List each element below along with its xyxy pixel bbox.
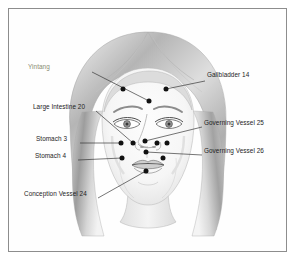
point-stomach-3 — [119, 141, 124, 146]
point-stomach-4-right — [161, 156, 166, 161]
point-nose-right-b — [165, 141, 170, 146]
label-stomach-3: Stomach 3 — [36, 136, 67, 142]
point-stomach-4 — [120, 156, 125, 161]
point-large-intestine-20 — [131, 141, 136, 146]
face-drawing-svg — [8, 8, 289, 254]
label-conception-vessel-24: Conception Vessel 24 — [24, 191, 87, 197]
point-governing-vessel-26 — [144, 150, 149, 155]
label-governing-vessel-26: Governing Vessel 26 — [204, 148, 264, 154]
label-stomach-4: Stomach 4 — [35, 153, 66, 159]
point-conception-vessel-24 — [144, 169, 149, 174]
point-nose-right-a — [155, 141, 160, 146]
acupuncture-face-figure: Yintang Gallbladder 14 Large Intestine 2… — [0, 0, 297, 262]
point-governing-vessel-25 — [143, 139, 148, 144]
label-gallbladder-14: Gallbladder 14 — [207, 72, 249, 78]
label-large-intestine-20: Large Intestine 20 — [33, 104, 85, 110]
point-gallbladder-14 — [164, 87, 169, 92]
face-illustration — [8, 8, 289, 254]
label-governing-vessel-25: Governing Vessel 25 — [204, 120, 264, 126]
label-yintang: Yintang — [28, 64, 50, 70]
point-forehead-left — [121, 87, 126, 92]
point-yintang — [147, 99, 152, 104]
